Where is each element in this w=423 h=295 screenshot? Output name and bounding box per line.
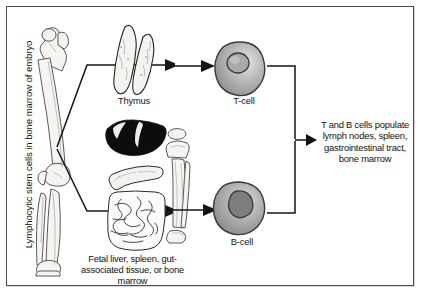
thymus-label: Thymus — [99, 96, 169, 107]
b-lymphocyte-cell-icon — [208, 179, 270, 237]
bursa-equivalent-label: Fetal liver, spleen, gut-associated tiss… — [65, 254, 200, 287]
t-lymphocyte-cell-icon — [210, 39, 270, 97]
thymus-organ-icon — [103, 23, 169, 95]
tibia-bone-icon — [159, 127, 199, 245]
arrow-icon — [168, 59, 216, 73]
outcome-text: T and B cells populatelymph nodes, splee… — [307, 119, 423, 164]
b-cell-label: B-cell — [211, 237, 273, 248]
figure-frame: Lymphocytic stem cells in bone marrow of… — [6, 6, 414, 286]
figure-canvas: Lymphocytic stem cells in bone marrow of… — [0, 0, 423, 295]
liver-organ-icon — [103, 117, 167, 159]
